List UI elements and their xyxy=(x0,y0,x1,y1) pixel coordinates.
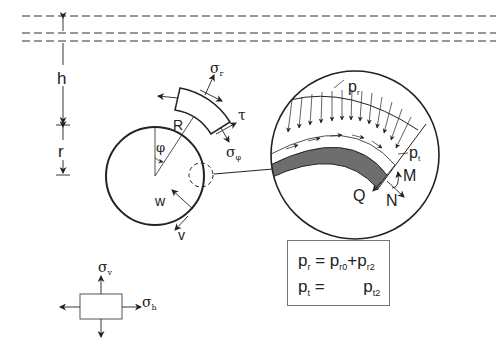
tunnel-diagram: h r φ R σr τ σφ w v xyxy=(0,0,496,360)
sigma-r-label: σr xyxy=(210,60,224,78)
formula-row-pr: pr = pr0+pr2 xyxy=(298,251,375,272)
pr-eq: = xyxy=(310,251,329,270)
Q-label: Q xyxy=(353,187,365,204)
detail-marker-circle xyxy=(189,163,213,187)
w-label: w xyxy=(154,193,166,209)
p-r-leader xyxy=(334,80,344,88)
M-label: M xyxy=(403,167,416,184)
far-field-stress-element: σv σh xyxy=(60,259,157,337)
radial-load-envelope xyxy=(290,96,418,130)
tau-label: τ xyxy=(238,107,246,123)
pt2-term: p xyxy=(363,277,372,296)
N-label: N xyxy=(386,192,398,209)
sigma-h-label: σh xyxy=(142,294,157,312)
v-label: v xyxy=(178,227,185,243)
phi-angle-arc xyxy=(155,158,163,162)
pr0-term: p xyxy=(330,251,339,270)
detail-zoom-view: pr pt Q N M xyxy=(270,71,439,239)
r-label: r xyxy=(58,142,64,161)
sigma-phi-left-arrow xyxy=(158,96,178,98)
p-t-leader xyxy=(398,153,408,154)
pr2-term: p xyxy=(357,251,366,270)
pr2-sub: r2 xyxy=(367,262,375,272)
pt2-sub: t2 xyxy=(373,288,381,298)
w-arrow xyxy=(172,190,193,209)
sigma-phi-label: σφ xyxy=(226,144,242,162)
ground-surface-lines xyxy=(22,16,496,41)
sigma-v-label: σv xyxy=(98,259,113,277)
formula-row-pt: pt = pt2 xyxy=(298,277,380,298)
h-label: h xyxy=(57,69,66,88)
M-moment-arrow xyxy=(392,172,398,188)
phi-label: φ xyxy=(156,140,165,155)
plus-op: + xyxy=(347,251,357,270)
load-formula-box: pr = pr0+pr2 pt = pt2 xyxy=(287,240,390,306)
stress-element-segment xyxy=(175,88,230,134)
p-t-label: pt xyxy=(409,144,421,163)
pt-eq: = xyxy=(310,277,329,296)
p-r-label: pr xyxy=(348,78,360,97)
R-label: R xyxy=(173,117,183,133)
sigma-r-arrow xyxy=(205,75,214,95)
sigma-phi-arrow xyxy=(221,128,229,142)
